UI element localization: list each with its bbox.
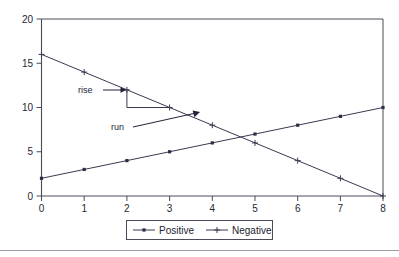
x-tick-label: 1: [81, 203, 87, 214]
x-tick-label: 3: [167, 203, 173, 214]
legend-label-negative: Negative: [232, 225, 272, 236]
series-positive-markers: [40, 106, 385, 180]
series-positive: [40, 106, 385, 180]
y-tick-label: 0: [27, 191, 33, 202]
x-axis-tick-labels: 0 1 2 3 4 5 6 7 8: [39, 203, 387, 214]
annotation-rise-label: rise: [78, 85, 93, 95]
legend-label-positive: Positive: [159, 225, 194, 236]
annotation-run-label: run: [111, 122, 124, 132]
x-tick-label: 7: [338, 203, 344, 214]
x-tick-label: 4: [210, 203, 216, 214]
y-tick-label: 20: [22, 14, 34, 25]
square-marker-icon: [142, 228, 145, 231]
x-tick-label: 2: [124, 203, 130, 214]
y-tick-label: 10: [22, 102, 34, 113]
chart-figure: 20 15 10 5 0 0 1 2 3 4 5 6 7: [0, 0, 399, 257]
annotation-run-arrowhead: [193, 110, 200, 117]
y-axis-ticks: [37, 19, 42, 196]
annotation-run: run: [111, 110, 200, 132]
x-tick-label: 6: [295, 203, 301, 214]
y-axis-tick-labels: 20 15 10 5 0: [22, 14, 34, 202]
y-tick-label: 15: [22, 58, 34, 69]
x-axis-ticks: [42, 196, 384, 201]
chart-plot-area: 20 15 10 5 0 0 1 2 3 4 5 6 7: [0, 0, 399, 257]
plot-frame: [42, 19, 384, 196]
x-tick-label: 8: [380, 203, 386, 214]
chart-legend[interactable]: Positive Negative: [127, 221, 273, 240]
series-negative-markers: [39, 51, 387, 199]
x-tick-label: 5: [252, 203, 258, 214]
x-tick-label: 0: [39, 203, 45, 214]
series-negative: [39, 51, 387, 199]
y-tick-label: 5: [27, 146, 33, 157]
